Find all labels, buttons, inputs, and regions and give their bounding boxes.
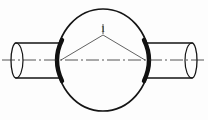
technical-drawing-canvas: 1 bbox=[0, 0, 208, 120]
drawing-svg: 1 bbox=[0, 0, 208, 120]
callout-1-label: 1 bbox=[101, 24, 106, 34]
